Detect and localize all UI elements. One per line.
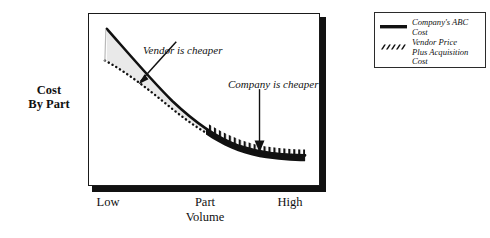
legend-item-vendor-price: Vendor Price Plus Acquisition Cost: [380, 38, 468, 67]
x-axis-label-line-1: Part: [174, 195, 236, 210]
solid-line-swatch: [380, 19, 408, 31]
dashed-line-swatch: [380, 39, 408, 51]
plot-frame: [88, 13, 320, 186]
region-vendor-left-edge: [105, 30, 106, 62]
x-axis-label-line-2: Volume: [174, 210, 236, 225]
legend-item-label: Vendor Price Plus Acquisition Cost: [412, 38, 468, 67]
figure-root: Vendor is cheaper Company is cheaper Cos…: [0, 0, 490, 238]
plot-canvas: [89, 14, 319, 185]
x-axis-label-part-volume: Part Volume: [174, 195, 236, 224]
y-axis-label-line-2: By Part: [16, 97, 82, 111]
legend-item-company-abc-cost: Company's ABC Cost: [380, 18, 468, 37]
legend-item-label: Company's ABC Cost: [412, 18, 468, 37]
annotation-vendor-is-cheaper: Vendor is cheaper: [143, 44, 222, 56]
arrow-company-is-cheaper: [255, 89, 265, 152]
y-axis-label-line-1: Cost: [16, 83, 82, 97]
annotation-company-is-cheaper: Company is cheaper: [228, 78, 318, 90]
legend: Company's ABC Cost Vendor Price Plus Acq…: [374, 12, 486, 68]
x-axis-tick-high: High: [260, 195, 320, 210]
y-axis-label: Cost By Part: [16, 83, 82, 111]
x-axis-tick-low: Low: [78, 195, 138, 210]
